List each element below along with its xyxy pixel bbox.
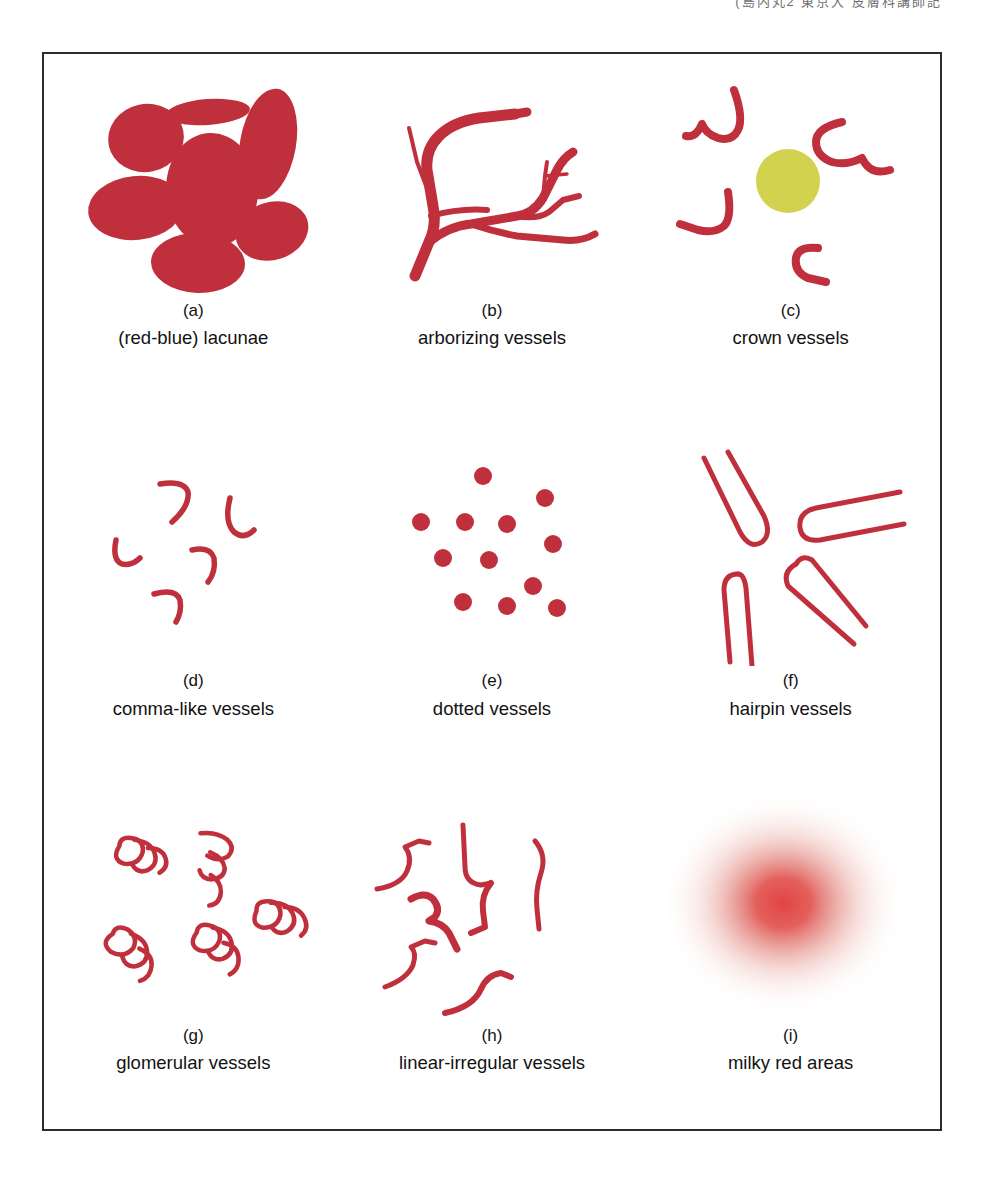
crown-vessels-illustration — [666, 66, 916, 296]
arborizing-vessels-illustration — [367, 66, 617, 296]
panel-h-letter: (h) — [399, 1023, 585, 1049]
panel-f-label: hairpin vessels — [729, 695, 851, 724]
lacunae-illustration — [68, 66, 318, 296]
panel-d-letter: (d) — [113, 668, 274, 694]
dotted-vessels-illustration — [367, 436, 617, 666]
panel-f-hairpin: (f) hairpin vessels — [641, 412, 940, 770]
figure-frame: (a) (red-blue) lacunae — [42, 52, 942, 1131]
panel-e-caption: (e) dotted vessels — [433, 668, 551, 723]
panel-e-dotted: (e) dotted vessels — [343, 412, 642, 770]
panel-i-milky-red: (i) milky red areas — [641, 771, 940, 1129]
panel-d-label: comma-like vessels — [113, 695, 274, 724]
panel-d-comma: (d) comma-like vessels — [44, 412, 343, 770]
panel-h-label: linear-irregular vessels — [399, 1049, 585, 1078]
panel-a-label: (red-blue) lacunae — [118, 324, 268, 353]
glomerular-vessels-illustration — [68, 791, 318, 1021]
panel-f-letter: (f) — [729, 668, 851, 694]
panel-d-caption: (d) comma-like vessels — [113, 668, 274, 723]
panel-a-caption: (a) (red-blue) lacunae — [118, 298, 268, 353]
panel-g-label: glomerular vessels — [116, 1049, 270, 1078]
panel-i-letter: (i) — [728, 1023, 853, 1049]
panel-h-linear-irregular: (h) linear-irregular vessels — [343, 771, 642, 1129]
panel-b-letter: (b) — [418, 298, 566, 324]
panel-b-caption: (b) arborizing vessels — [418, 298, 566, 353]
panel-grid: (a) (red-blue) lacunae — [44, 54, 940, 1129]
comma-like-vessels-illustration — [68, 436, 318, 666]
panel-g-letter: (g) — [116, 1023, 270, 1049]
panel-e-letter: (e) — [433, 668, 551, 694]
panel-a-letter: (a) — [118, 298, 268, 324]
linear-irregular-vessels-illustration — [367, 791, 617, 1021]
panel-h-caption: (h) linear-irregular vessels — [399, 1023, 585, 1078]
panel-b-arborizing: (b) arborizing vessels — [343, 54, 642, 412]
panel-g-glomerular: (g) glomerular vessels — [44, 771, 343, 1129]
panel-g-caption: (g) glomerular vessels — [116, 1023, 270, 1078]
panel-c-caption: (c) crown vessels — [733, 298, 849, 353]
top-page-caption: (島内丸2 東京大 皮膚科講師記 — [735, 0, 942, 10]
milky-red-areas-illustration — [666, 791, 916, 1021]
panel-c-label: crown vessels — [733, 324, 849, 353]
crown-center-circle — [756, 149, 820, 213]
panel-a-lacunae: (a) (red-blue) lacunae — [44, 54, 343, 412]
panel-c-letter: (c) — [733, 298, 849, 324]
panel-f-caption: (f) hairpin vessels — [729, 668, 851, 723]
panel-e-label: dotted vessels — [433, 695, 551, 724]
panel-i-label: milky red areas — [728, 1049, 853, 1078]
panel-i-caption: (i) milky red areas — [728, 1023, 853, 1078]
panel-b-label: arborizing vessels — [418, 324, 566, 353]
panel-c-crown: (c) crown vessels — [641, 54, 940, 412]
hairpin-vessels-illustration — [666, 436, 916, 666]
